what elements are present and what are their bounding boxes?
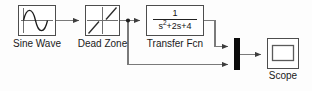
scope-icon [273,46,294,61]
block-scope[interactable] [268,39,299,69]
block-label-transfer-fcn: Transfer Fcn [143,38,207,49]
signal-branch-point [126,18,130,22]
block-label-sine-wave: Sine Wave [12,38,62,49]
transfer-fcn-expression: 1 s2+2s+4 [149,8,201,32]
transfer-fcn-numerator: 1 [149,8,201,18]
block-label-dead-zone: Dead Zone [76,38,129,49]
denominator-rest: +2s+4 [167,21,192,31]
wire-transferfcn-to-mux-upper [204,21,228,47]
block-mux[interactable] [234,38,240,70]
block-diagram-canvas: 1 s2+2s+4 Sine Wave Dead Zone Transfer F… [0,0,312,91]
mux-bar-icon[interactable] [234,38,240,70]
block-sine-wave[interactable] [19,6,56,36]
block-dead-zone[interactable] [86,6,120,36]
block-label-scope: Scope [262,70,304,81]
transfer-fcn-denominator: s2+2s+4 [149,20,201,32]
